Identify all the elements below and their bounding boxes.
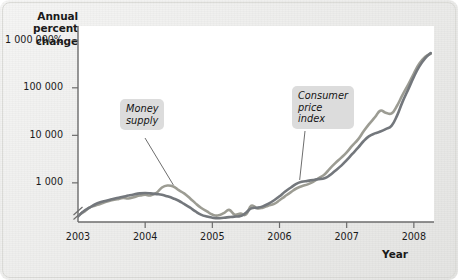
annotation-leader-lines [145,131,305,185]
figure-panel: Annual percent change Year 1 000 000%100… [0,0,458,280]
annotation-money-supply: Money supply [120,99,164,130]
x-axis-tick-label: 2007 [327,231,367,242]
leader-line [145,138,173,185]
leader-line [300,131,305,180]
x-axis-tick-label: 2003 [58,231,98,242]
annotation-consumer-price-index: Consumer price index [292,86,354,129]
x-axis-tick-label: 2004 [125,231,165,242]
data-series [78,53,431,218]
x-axis-tick-label: 2005 [192,231,232,242]
series-line [78,54,431,216]
x-axis-tick-label: 2006 [260,231,300,242]
x-axis-tick-label: 2008 [394,231,434,242]
series-line [78,53,431,218]
